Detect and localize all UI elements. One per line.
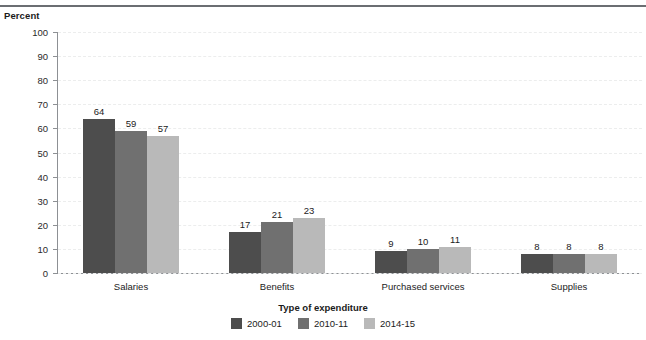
- y-axis-tick-label: 80: [22, 75, 48, 86]
- bar-value-label: 64: [83, 106, 115, 117]
- x-axis-category-label: Benefits: [260, 281, 294, 292]
- bar-value-label: 23: [293, 205, 325, 216]
- bar[interactable]: [439, 247, 471, 274]
- bar-column[interactable]: 21: [261, 32, 293, 273]
- bar-column[interactable]: 57: [147, 32, 179, 273]
- bar-column[interactable]: 9: [375, 32, 407, 273]
- y-axis-tick-label: 60: [22, 123, 48, 134]
- bar-column[interactable]: 8: [585, 32, 617, 273]
- gridline: [58, 273, 642, 274]
- x-axis-category-label: Salaries: [114, 281, 148, 292]
- legend-label: 2010-11: [314, 318, 348, 329]
- header-rule: [0, 5, 646, 7]
- bar-column[interactable]: 64: [83, 32, 115, 273]
- bar-column[interactable]: 10: [407, 32, 439, 273]
- bar-value-label: 59: [115, 118, 147, 129]
- bar-column[interactable]: 11: [439, 32, 471, 273]
- bar-column[interactable]: 17: [229, 32, 261, 273]
- page-top-margin: [0, 0, 646, 4]
- bar-group: 172123: [229, 32, 325, 273]
- x-axis-category-label: Purchased services: [382, 281, 465, 292]
- legend: 2000-012010-112014-15: [0, 318, 646, 329]
- bar-column[interactable]: 23: [293, 32, 325, 273]
- bar-value-label: 8: [553, 241, 585, 252]
- bar[interactable]: [375, 251, 407, 273]
- chart-page: Percent 0102030405060708090100 645957172…: [0, 0, 646, 340]
- plot-area: 64595717212391011888: [58, 32, 642, 273]
- y-axis-tick-label: 50: [22, 147, 48, 158]
- bar-group: 888: [521, 32, 617, 273]
- y-axis-title: Percent: [4, 10, 40, 21]
- bar[interactable]: [553, 254, 585, 273]
- y-axis-tick-label: 10: [22, 243, 48, 254]
- bar-value-label: 57: [147, 123, 179, 134]
- bar-column[interactable]: 8: [521, 32, 553, 273]
- bar[interactable]: [229, 232, 261, 273]
- bar[interactable]: [521, 254, 553, 273]
- y-axis-tick-label: 40: [22, 171, 48, 182]
- y-axis-tick-label: 70: [22, 99, 48, 110]
- bar-value-label: 10: [407, 236, 439, 247]
- y-axis-tick-label: 20: [22, 219, 48, 230]
- legend-swatch: [231, 318, 242, 329]
- bar-column[interactable]: 59: [115, 32, 147, 273]
- bar-group: 645957: [83, 32, 179, 273]
- bar[interactable]: [261, 222, 293, 273]
- bar[interactable]: [147, 136, 179, 273]
- bar-value-label: 9: [375, 238, 407, 249]
- y-axis-tick-label: 90: [22, 51, 48, 62]
- bar-value-label: 21: [261, 209, 293, 220]
- x-axis-category-label: Supplies: [551, 281, 587, 292]
- bar[interactable]: [115, 131, 147, 273]
- bar[interactable]: [407, 249, 439, 273]
- y-axis-tick-label: 100: [22, 27, 48, 38]
- legend-item[interactable]: 2000-01: [231, 318, 282, 329]
- legend-label: 2014-15: [380, 318, 415, 329]
- x-axis-title: Type of expenditure: [0, 302, 646, 313]
- y-axis-tick-label: 30: [22, 195, 48, 206]
- legend-item[interactable]: 2014-15: [364, 318, 415, 329]
- legend-label: 2000-01: [247, 318, 282, 329]
- y-axis-tick-label: 0: [22, 268, 48, 279]
- legend-item[interactable]: 2010-11: [298, 318, 348, 329]
- bar-value-label: 8: [521, 241, 553, 252]
- bar-value-label: 8: [585, 241, 617, 252]
- legend-swatch: [364, 318, 375, 329]
- bar-group: 91011: [375, 32, 471, 273]
- bar-column[interactable]: 8: [553, 32, 585, 273]
- bar[interactable]: [83, 119, 115, 273]
- bar[interactable]: [293, 218, 325, 273]
- bar[interactable]: [585, 254, 617, 273]
- bar-value-label: 17: [229, 219, 261, 230]
- legend-swatch: [298, 318, 309, 329]
- bar-value-label: 11: [439, 234, 471, 245]
